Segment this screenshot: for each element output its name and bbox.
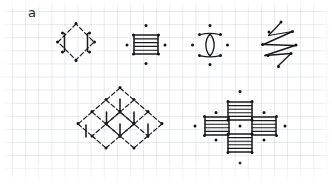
dot-group: [191, 24, 229, 66]
lattice-drawing: [0, 0, 332, 184]
dot-group: [77, 86, 164, 150]
dot-group: [56, 22, 96, 62]
figure-panel: a: [0, 0, 332, 184]
figure-zigzag-arrow: [261, 21, 298, 69]
striped-square-top: [228, 102, 252, 120]
striped-square-left: [205, 117, 229, 135]
panel-label: a: [28, 6, 36, 19]
striped-square-bottom: [228, 134, 252, 152]
striped-square-right: [252, 117, 276, 135]
figure-diamond-with-two-bars: [56, 22, 96, 62]
figure-cross-of-striped-squares: [194, 90, 287, 165]
figure-vertical-lens: [191, 24, 229, 66]
figure-striped-square: [126, 24, 167, 65]
figure-diamond-cluster-pyramid: [77, 86, 164, 150]
dot-group: [126, 24, 167, 65]
